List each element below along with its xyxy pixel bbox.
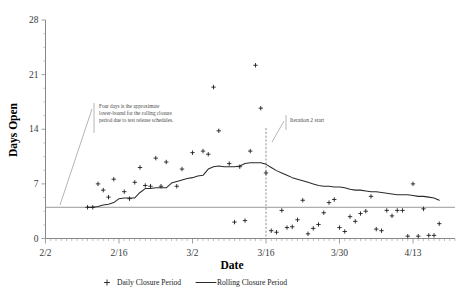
x-tick-label: 2/16 (111, 248, 128, 258)
x-tick-label: 3/30 (331, 248, 348, 258)
legend-label-rolling: Rolling Closure Period (217, 278, 287, 287)
x-tick-label: 4/13 (405, 248, 422, 258)
y-tick-label: 21 (29, 70, 39, 80)
iteration-2-label: Iteration 2 start (290, 117, 325, 123)
x-tick-label: 2/2 (39, 248, 51, 258)
lower-bound-note-line-2: lower-bound for the rolling closure (99, 110, 172, 116)
chart-background (0, 0, 463, 296)
y-tick-label: 7 (34, 179, 39, 189)
y-axis-title: Days Open (7, 102, 20, 157)
lower-bound-note-line-3: period due to test release schedules. (99, 117, 173, 123)
x-tick-label: 3/16 (258, 248, 275, 258)
legend-label-daily: Daily Closure Period (117, 278, 181, 287)
chart-figure: 07142128 2/22/163/23/163/304/13 Four day… (0, 0, 463, 296)
y-tick-label: 14 (29, 124, 39, 134)
lower-bound-note-line-1: Four days is the approximate (99, 103, 160, 109)
y-tick-label: 0 (34, 234, 39, 244)
y-tick-label: 28 (29, 15, 39, 25)
x-axis-title: Date (221, 259, 244, 271)
x-tick-label: 3/2 (186, 248, 198, 258)
chart-svg: 07142128 2/22/163/23/163/304/13 Four day… (0, 0, 463, 296)
